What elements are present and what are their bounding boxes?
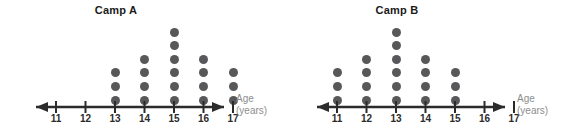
axis-tick-label: 15 [162, 113, 186, 124]
axis-tick-label: 11 [325, 113, 349, 124]
axis-arrow-left-icon [317, 102, 329, 112]
axis-caption-line-2: (years) [517, 105, 561, 117]
axis-caption: Age (years) [517, 93, 561, 117]
axis-caption-line-1: Age [517, 93, 561, 105]
axis-line-group [36, 102, 224, 112]
dot-plot-camp-b: Camp B 11121314151617 Age (years) [281, 0, 561, 140]
axis-line-group [317, 102, 505, 112]
axis-tick-label: 13 [103, 113, 127, 124]
axis-tick-label: 13 [384, 113, 408, 124]
axis-tick-label: 12 [74, 113, 98, 124]
axis-tick-label: 16 [192, 113, 216, 124]
axis-tick-label: 12 [355, 113, 379, 124]
dot-plot-camp-a: Camp A 11121314151617 Age (years) [0, 0, 280, 140]
axis-arrow-left-icon [36, 102, 48, 112]
axis-arrow-right-icon [212, 102, 224, 112]
axis-tick-label: 14 [133, 113, 157, 124]
dot-plot-figure: Camp A 11121314151617 Age (years) Camp B [0, 0, 561, 140]
axis-tick-label: 11 [44, 113, 68, 124]
axis-tick-label: 15 [443, 113, 467, 124]
axis-tick-label: 14 [414, 113, 438, 124]
axis-arrow-right-icon [493, 102, 505, 112]
axis-tick-label: 16 [473, 113, 497, 124]
